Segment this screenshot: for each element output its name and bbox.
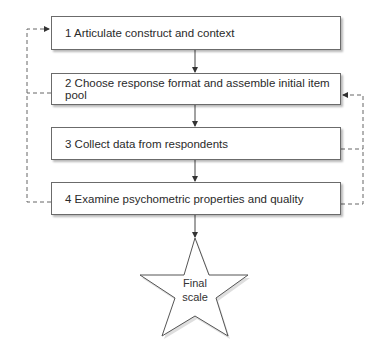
step-4-box: 4 Examine psychometric properties and qu… <box>51 182 341 215</box>
step-1-label: 1 Articulate construct and context <box>65 27 234 39</box>
right-feedback-loop <box>341 95 363 204</box>
step-2-label: 2 Choose response format and assemble in… <box>65 77 340 101</box>
step-3-box: 3 Collect data from respondents <box>51 127 341 160</box>
final-label-line1: Final <box>165 276 225 290</box>
step-2-box: 2 Choose response format and assemble in… <box>51 73 341 105</box>
final-scale-label: Final scale <box>165 276 225 304</box>
step-3-label: 3 Collect data from respondents <box>65 138 228 150</box>
final-label-line2: scale <box>165 290 225 304</box>
step-1-box: 1 Articulate construct and context <box>51 16 341 50</box>
step-4-label: 4 Examine psychometric properties and qu… <box>65 193 303 205</box>
left-feedback-loop <box>27 29 51 202</box>
